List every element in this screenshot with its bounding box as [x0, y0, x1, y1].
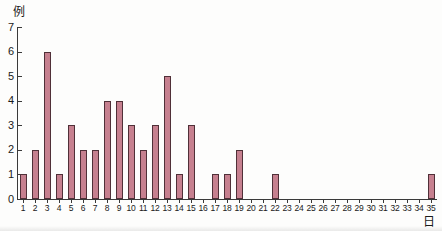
y-tick-label: 1	[1, 169, 14, 180]
y-tick-label: 2	[1, 144, 14, 155]
y-tick-label: 5	[1, 71, 14, 82]
bar-day-2	[32, 150, 39, 199]
y-tick-mark	[18, 101, 22, 102]
bar-day-19	[236, 150, 243, 199]
bar-day-10	[128, 125, 135, 199]
bar-day-7	[92, 150, 99, 199]
bar-day-3	[44, 52, 51, 199]
bar-day-9	[116, 101, 123, 199]
bar-day-22	[272, 174, 279, 199]
page-scan-shade	[0, 226, 442, 231]
bar-day-5	[68, 125, 75, 199]
y-tick-label: 0	[1, 194, 14, 205]
bar-day-17	[212, 174, 219, 199]
bar-day-35	[428, 174, 435, 199]
daily-cases-bar-chart: 例 01234567 12345678910111213141516171819…	[0, 0, 442, 231]
bar-day-15	[188, 125, 195, 199]
bar-day-14	[176, 174, 183, 199]
y-tick-mark	[18, 52, 22, 53]
y-tick-mark	[18, 27, 22, 28]
bar-day-6	[80, 150, 87, 199]
y-tick-label: 7	[1, 22, 14, 33]
y-tick-label: 6	[1, 46, 14, 57]
y-tick-mark	[18, 125, 22, 126]
bar-day-11	[140, 150, 147, 199]
y-tick-mark	[18, 76, 22, 77]
bar-day-8	[104, 101, 111, 199]
bar-day-13	[164, 76, 171, 199]
y-tick-mark	[18, 150, 22, 151]
y-tick-label: 3	[1, 120, 14, 131]
bar-day-12	[152, 125, 159, 199]
bar-day-4	[56, 174, 63, 199]
y-axis-title: 例	[13, 2, 25, 19]
bar-day-18	[224, 174, 231, 199]
bar-day-1	[20, 174, 27, 199]
y-tick-label: 4	[1, 95, 14, 106]
